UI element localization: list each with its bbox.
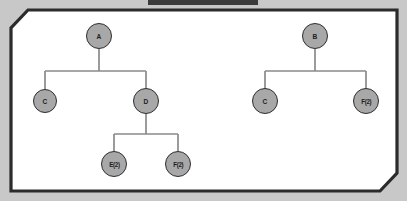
node-e2-circle: E(2) bbox=[101, 151, 127, 177]
node-c-left-label: C bbox=[43, 97, 47, 106]
node-d-label: D bbox=[144, 97, 148, 106]
node-c-left-circle: C bbox=[33, 89, 57, 113]
node-f2-left-circle: F(2) bbox=[165, 151, 191, 177]
tree-diagram-canvas: A C D E(2) F(2) B C F(2) bbox=[0, 0, 407, 201]
diagram-svg bbox=[0, 0, 407, 201]
node-d[interactable]: D bbox=[133, 88, 159, 114]
node-f2-right[interactable]: F(2) bbox=[353, 88, 379, 114]
node-c-left[interactable]: C bbox=[33, 89, 57, 113]
node-f2-left-label: F(2) bbox=[173, 160, 183, 169]
node-b-label: B bbox=[313, 32, 317, 41]
panel-frame bbox=[11, 10, 397, 191]
node-b[interactable]: B bbox=[302, 23, 328, 49]
node-f2-right-label: F(2) bbox=[361, 97, 371, 106]
node-f2-left[interactable]: F(2) bbox=[165, 151, 191, 177]
node-c-right[interactable]: C bbox=[252, 88, 278, 114]
node-e2-label: E(2) bbox=[109, 160, 120, 169]
node-f2-right-circle: F(2) bbox=[353, 88, 379, 114]
node-c-right-label: C bbox=[263, 97, 267, 106]
node-a[interactable]: A bbox=[86, 23, 112, 49]
node-d-circle: D bbox=[133, 88, 159, 114]
node-a-circle: A bbox=[86, 23, 112, 49]
node-e2[interactable]: E(2) bbox=[101, 151, 127, 177]
node-c-right-circle: C bbox=[252, 88, 278, 114]
node-b-circle: B bbox=[302, 23, 328, 49]
node-a-label: A bbox=[97, 32, 101, 41]
